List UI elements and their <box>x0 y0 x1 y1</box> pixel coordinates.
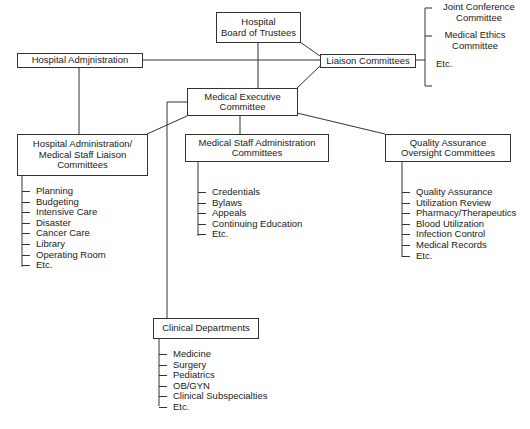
hospital-administration-label: Hospital Admjnistration <box>32 55 129 66</box>
list-item: Etc. <box>198 229 302 240</box>
list-item: Medical Records <box>402 240 516 251</box>
clinical-departments-label: Clinical Departments <box>162 323 250 334</box>
ha-ms-items-list: Planning Budgeting Intensive Care Disast… <box>22 186 106 271</box>
medical-executive-committee-box: Medical Executive Committee <box>187 88 298 116</box>
list-item: Library <box>22 239 106 250</box>
hospital-administration-box: Hospital Admjnistration <box>17 53 143 68</box>
liaison-committees-label: Liaison Committees <box>326 56 409 67</box>
ha-ms-line-3: Committees <box>57 160 108 171</box>
board-line-2: Board of Trustees <box>221 28 296 39</box>
qa-items-list: Quality Assurance Utilization Review Pha… <box>402 187 516 261</box>
quality-assurance-oversight-box: Quality Assurance Oversight Committees <box>385 134 511 162</box>
board-of-trustees-box: Hospital Board of Trustees <box>216 12 301 43</box>
msa-items-list: Credentials Bylaws Appeals Continuing Ed… <box>198 187 302 240</box>
list-item: Quality Assurance <box>402 187 516 198</box>
liaison-children-list: Joint Conference Committee Medical Ethic… <box>436 2 522 70</box>
liaison-committees-box: Liaison Committees <box>320 54 416 68</box>
med-exec-line-2: Committee <box>220 102 266 113</box>
msa-line-2: Committees <box>232 148 283 159</box>
list-item: Operating Room <box>22 250 106 261</box>
list-item: Etc. <box>402 251 516 262</box>
qa-line-2: Oversight Committees <box>401 148 495 159</box>
medical-staff-administration-box: Medical Staff Administration Committees <box>185 134 329 162</box>
ha-ms-liaison-committees-box: Hospital Administration/ Medical Staff L… <box>17 134 148 176</box>
list-item: Planning <box>22 186 106 197</box>
clinical-departments-box: Clinical Departments <box>153 318 259 339</box>
list-item: Credentials <box>198 187 302 198</box>
liaison-child-joint-conference: Joint Conference Committee <box>436 2 522 23</box>
clinical-items-list: Medicine Surgery Pediatrics OB/GYN Clini… <box>159 349 268 413</box>
liaison-child-medical-ethics: Medical Ethics Committee <box>436 30 514 51</box>
board-line-1: Hospital <box>241 17 275 28</box>
list-item: Etc. <box>22 260 106 271</box>
list-item: Medicine <box>159 349 268 360</box>
liaison-child-etc: Etc. <box>436 59 522 70</box>
list-item: Etc. <box>159 402 268 413</box>
